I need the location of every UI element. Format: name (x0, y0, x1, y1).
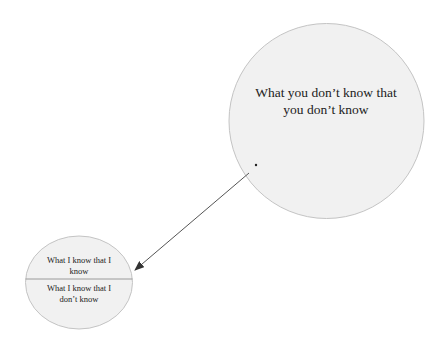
small-circle-top-label: What I know that I know (38, 255, 120, 277)
small-circle-bottom-label: What I know that I don’t know (38, 283, 120, 305)
big-circle-label: What you don’t know that you don’t know (251, 84, 401, 118)
big-circle (229, 24, 424, 219)
arrow-connector (135, 173, 249, 270)
dot-marker (255, 164, 257, 166)
